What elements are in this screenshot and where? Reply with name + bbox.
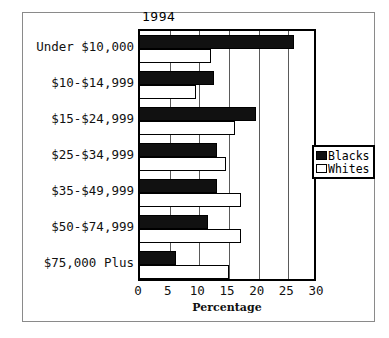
bar-blacks: [139, 107, 256, 121]
x-tick-label: 20: [249, 283, 264, 298]
x-tick-label: 25: [279, 283, 294, 298]
bar-blacks: [139, 215, 208, 229]
bar-whites: [139, 121, 235, 135]
bar-whites: [139, 193, 241, 207]
y-tick-label: $75,000 Plus: [0, 255, 134, 270]
bar-group: [140, 31, 314, 67]
bar-blacks: [139, 35, 294, 49]
plot-inner: [140, 31, 314, 279]
y-tick-label: $25-$34,999: [0, 147, 134, 162]
bar-whites: [139, 49, 211, 63]
bar-whites: [139, 229, 241, 243]
chart-legend: Blacks Whites: [312, 145, 375, 179]
bar-group: [140, 139, 314, 175]
x-tick-label: 0: [134, 283, 142, 298]
bar-whites: [139, 265, 229, 279]
bar-blacks: [139, 179, 217, 193]
x-axis-tick-labels: 051015202530: [138, 283, 316, 301]
x-tick-label: 30: [308, 283, 323, 298]
bar-whites: [139, 85, 196, 99]
x-tick-label: 5: [164, 283, 172, 298]
bar-group: [140, 211, 314, 247]
x-tick-label: 15: [219, 283, 234, 298]
bar-whites: [139, 157, 226, 171]
y-tick-label: $50-$74,999: [0, 219, 134, 234]
y-tick-label: $10-$14,999: [0, 75, 134, 90]
y-tick-label: $15-$24,999: [0, 111, 134, 126]
y-tick-label: $35-$49,999: [0, 183, 134, 198]
chart-figure: 1994 Under $10,000$10-$14,999$15-$24,999…: [0, 0, 389, 338]
legend-swatch-blacks-icon: [316, 151, 327, 160]
legend-label-whites: Whites: [328, 163, 370, 175]
legend-item-blacks: Blacks: [316, 149, 370, 162]
x-tick-label: 10: [190, 283, 205, 298]
y-axis-category-labels: Under $10,000$10-$14,999$15-$24,999$25-$…: [0, 29, 134, 281]
bar-group: [140, 103, 314, 139]
chart-title: 1994: [142, 9, 175, 24]
bar-blacks: [139, 143, 217, 157]
legend-label-blacks: Blacks: [328, 150, 370, 162]
x-axis-label: Percentage: [138, 301, 316, 314]
legend-swatch-whites-icon: [316, 164, 327, 173]
plot-area: [138, 29, 316, 281]
bar-blacks: [139, 251, 176, 265]
bar-blacks: [139, 71, 214, 85]
bar-group: [140, 247, 314, 283]
y-tick-label: Under $10,000: [0, 39, 134, 54]
bar-group: [140, 175, 314, 211]
bar-group: [140, 67, 314, 103]
legend-item-whites: Whites: [316, 162, 370, 175]
